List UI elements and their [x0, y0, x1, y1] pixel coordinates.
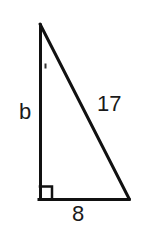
- label-vertical-leg: b: [19, 101, 31, 123]
- label-horizontal-leg: 8: [72, 203, 84, 225]
- triangle-figure: b 17 8: [0, 0, 142, 230]
- label-hypotenuse: 17: [97, 93, 121, 115]
